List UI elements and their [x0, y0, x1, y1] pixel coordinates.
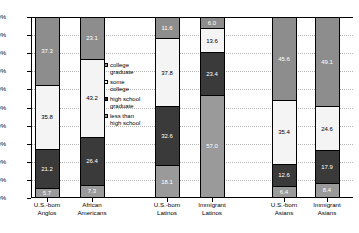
legend-label-line: high school: [110, 96, 140, 103]
x-axis-tick: [284, 198, 285, 202]
bar-value-label: 37.8: [161, 70, 173, 76]
x-axis-category-label: AfricanAmericans: [64, 201, 120, 217]
bar-column[interactable]: 49.124.617.98.4: [315, 17, 340, 198]
bar-column[interactable]: 6.013.623.457.0: [200, 17, 225, 198]
bar-segment[interactable]: 49.1: [315, 17, 340, 106]
legend-item[interactable]: somecollege: [104, 79, 150, 93]
bar-value-label: 12.6: [278, 172, 290, 178]
x-label-line: Immigrant: [299, 201, 355, 209]
legend-label-line: some: [110, 79, 129, 86]
bar-value-label: 23.4: [206, 71, 218, 77]
x-label-line: Americans: [64, 209, 120, 217]
legend-label-line: graduate: [110, 103, 140, 110]
bar-value-label: 35.8: [41, 114, 53, 120]
legend-label-line: college: [110, 62, 134, 69]
y-axis-tick-label: 70%: [0, 68, 6, 74]
bar-segment[interactable]: 35.8: [35, 85, 60, 150]
bars-group: 37.335.821.25.723.143.226.47.311.637.832…: [31, 17, 353, 198]
bar-column[interactable]: 23.143.226.47.3: [80, 17, 105, 198]
x-axis-tick: [212, 198, 213, 202]
bar-value-label: 37.3: [41, 48, 53, 54]
bar-segment[interactable]: 5.7: [35, 188, 60, 198]
bar-segment[interactable]: 37.3: [35, 17, 60, 85]
y-axis-tick-label: 20%: [0, 159, 6, 165]
legend-label-line: college: [110, 86, 129, 93]
bar-segment[interactable]: 6.4: [272, 186, 297, 198]
bar-segment[interactable]: 18.1: [155, 165, 180, 198]
legend-swatch-icon: [104, 63, 108, 67]
bar-column[interactable]: 11.637.832.618.1: [155, 17, 180, 198]
legend-item-label: less thanhigh school: [110, 113, 140, 127]
y-axis-tick-label: 90%: [0, 32, 6, 38]
bar-segment[interactable]: 13.6: [200, 28, 225, 53]
chart-legend: collegegraduatesomecollegehigh schoolgra…: [104, 62, 150, 130]
bar-value-label: 26.4: [86, 158, 98, 164]
bar-segment[interactable]: 12.6: [272, 164, 297, 187]
x-label-line: Latinos: [184, 209, 240, 217]
bar-value-label: 57.0: [206, 143, 218, 149]
x-label-line: Asians: [299, 209, 355, 217]
bar-segment[interactable]: 11.6: [155, 17, 180, 38]
x-axis-category-label: ImmigrantAsians: [299, 201, 355, 217]
bar-value-label: 21.2: [41, 166, 53, 172]
legend-label-line: less than: [110, 113, 140, 120]
y-axis-tick-label: 30%: [0, 141, 6, 147]
bar-segment[interactable]: 6.0: [200, 17, 225, 28]
bar-value-label: 6.0: [208, 20, 216, 26]
bar-value-label: 7.3: [88, 188, 96, 194]
bar-value-label: 45.6: [278, 56, 290, 62]
legend-swatch-icon: [104, 97, 108, 101]
bar-value-label: 32.6: [161, 133, 173, 139]
legend-item[interactable]: collegegraduate: [104, 62, 150, 76]
bar-value-label: 6.4: [280, 189, 288, 195]
bar-segment[interactable]: 35.4: [272, 100, 297, 164]
bar-segment[interactable]: 23.4: [200, 52, 225, 94]
x-label-line: African: [64, 201, 120, 209]
bar-segment[interactable]: 7.3: [80, 185, 105, 198]
x-axis-tick: [327, 198, 328, 202]
bar-value-label: 23.1: [86, 35, 98, 41]
bar-segment[interactable]: 43.2: [80, 59, 105, 137]
bar-value-label: 35.4: [278, 129, 290, 135]
bar-value-label: 5.7: [43, 190, 51, 196]
x-axis-tick: [47, 198, 48, 202]
y-axis-tick-label: 50%: [0, 105, 6, 111]
bar-segment[interactable]: 24.6: [315, 106, 340, 151]
legend-label-line: graduate: [110, 69, 134, 76]
y-axis-tick-label: 60%: [0, 86, 6, 92]
bar-value-label: 24.6: [321, 126, 333, 132]
bar-segment[interactable]: 8.4: [315, 183, 340, 198]
bar-segment[interactable]: 21.2: [35, 149, 60, 187]
x-label-line: Immigrant: [184, 201, 240, 209]
bar-segment[interactable]: 23.1: [80, 17, 105, 59]
bar-segment[interactable]: 45.6: [272, 17, 297, 100]
legend-item-label: collegegraduate: [110, 62, 134, 76]
y-axis-tick-label: 80%: [0, 50, 6, 56]
legend-item[interactable]: high schoolgraduate: [104, 96, 150, 110]
bar-value-label: 11.6: [161, 25, 172, 31]
bar-segment[interactable]: 17.9: [315, 150, 340, 182]
bar-segment[interactable]: 26.4: [80, 137, 105, 185]
legend-item-label: high schoolgraduate: [110, 96, 140, 110]
bar-segment[interactable]: 57.0: [200, 95, 225, 198]
y-axis-tick: [27, 198, 31, 199]
stacked-bar-chart: 0%10%20%30%40%50%60%70%80%90%100% 37.335…: [0, 0, 359, 233]
y-axis-tick-label: 100%: [0, 14, 6, 20]
bar-value-label: 43.2: [86, 95, 98, 101]
bar-value-label: 49.1: [321, 59, 333, 65]
legend-swatch-icon: [104, 80, 108, 84]
y-axis-tick-label: 40%: [0, 123, 6, 129]
y-axis-tick-label: 10%: [0, 177, 6, 183]
bar-segment[interactable]: 32.6: [155, 106, 180, 165]
bar-value-label: 13.6: [206, 38, 218, 44]
x-axis-tick: [167, 198, 168, 202]
bar-column[interactable]: 37.335.821.25.7: [35, 17, 60, 198]
legend-item-label: somecollege: [110, 79, 129, 93]
legend-swatch-icon: [104, 114, 108, 118]
bar-value-label: 8.4: [323, 187, 331, 193]
legend-item[interactable]: less thanhigh school: [104, 113, 150, 127]
bar-column[interactable]: 45.635.412.66.4: [272, 17, 297, 198]
bar-segment[interactable]: 37.8: [155, 38, 180, 106]
x-axis-tick: [92, 198, 93, 202]
bar-value-label: 17.9: [321, 164, 333, 170]
